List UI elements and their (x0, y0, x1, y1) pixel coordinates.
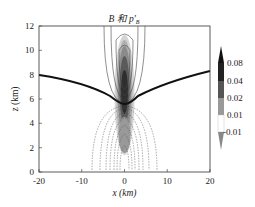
x-axis (39, 169, 210, 172)
y-tick: 6 (30, 94, 35, 104)
colorbar-tick: 0.08 (227, 58, 243, 68)
y-tick: 8 (30, 70, 35, 80)
colorbar-tick: 0.04 (227, 76, 243, 86)
colorbar-tick: 0.02 (227, 93, 243, 103)
colorbar-tick: 0.01 (227, 110, 243, 120)
y-tick: 2 (30, 143, 35, 153)
title-main: B 和 p' (108, 14, 136, 24)
y-axis-label: z (km) (10, 86, 21, 111)
title-sub: B (136, 19, 140, 25)
chart-title: B 和 p'B (108, 14, 139, 25)
x-axis-label: x (km) (112, 188, 137, 199)
x-tick: -20 (33, 176, 45, 186)
y-tick: 4 (30, 118, 35, 128)
y-tick: 10 (25, 45, 35, 55)
x-tick: 0 (122, 176, 127, 186)
y-tick: 12 (25, 21, 34, 31)
y-axis (39, 26, 42, 172)
chart: 0 2 4 6 8 10 12 -20 -10 0 10 20 x (km) z… (0, 0, 255, 207)
x-tick: 10 (163, 176, 173, 186)
x-tick: 20 (206, 176, 216, 186)
colorbar-tick: -0.01 (223, 127, 242, 137)
x-tick: -10 (76, 176, 88, 186)
